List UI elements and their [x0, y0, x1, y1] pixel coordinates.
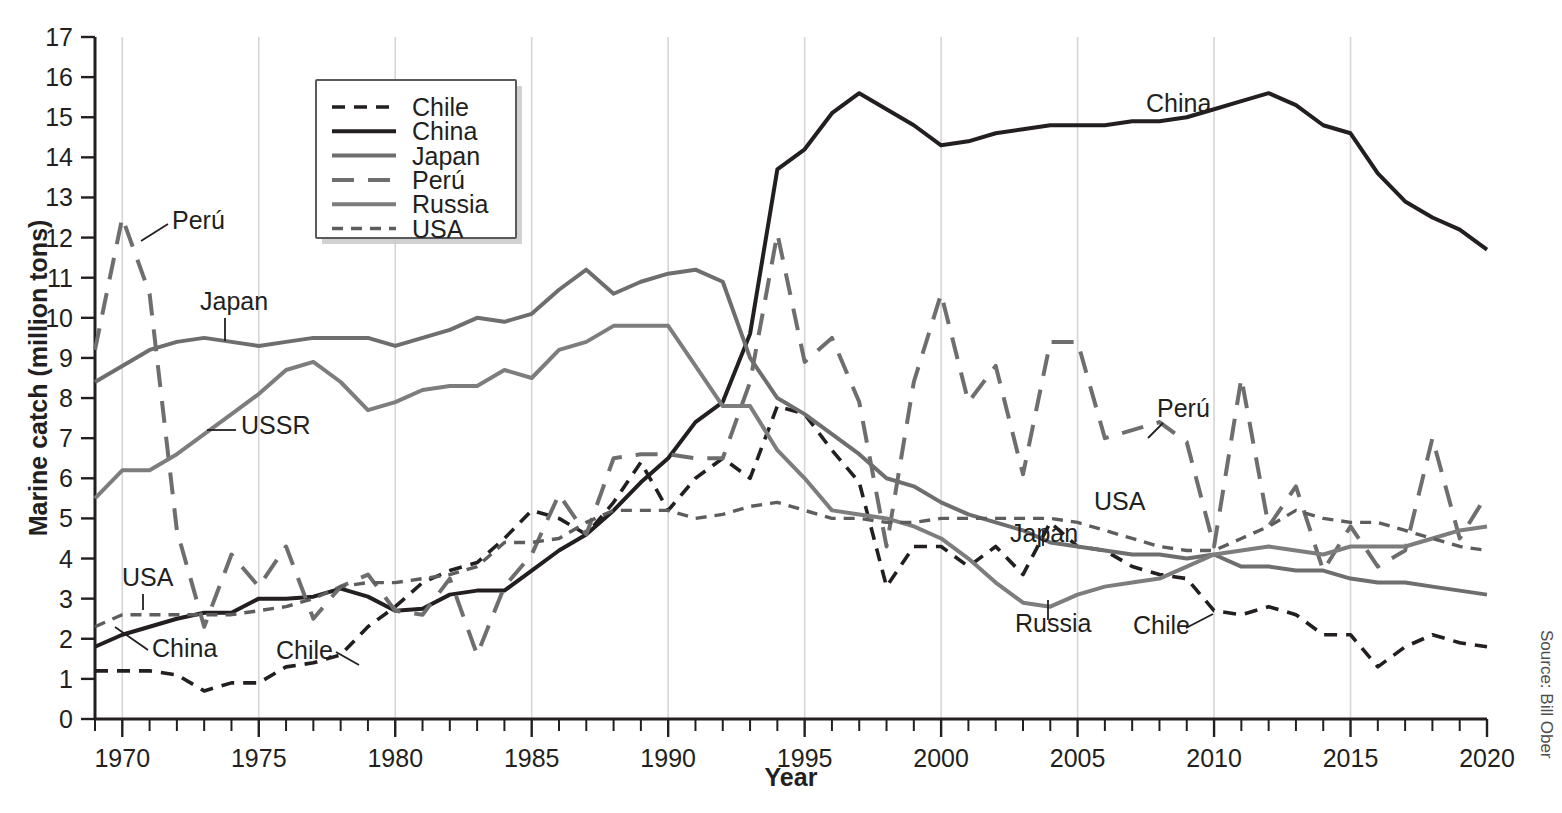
- y-tick-label: 14: [45, 143, 73, 171]
- y-tick-label: 4: [59, 545, 73, 573]
- series-label-ussr-left: USSR: [241, 411, 310, 439]
- y-tick-label: 3: [59, 585, 73, 613]
- series-label-russia-right: Russia: [1015, 609, 1092, 637]
- series-line-china: [95, 93, 1487, 647]
- series-label-usa-right: USA: [1094, 487, 1146, 515]
- series-label-usa-left: USA: [122, 563, 174, 591]
- series-paths: [95, 93, 1487, 691]
- y-tick-label: 9: [59, 344, 73, 372]
- y-axis-ticks: 01234567891011121314151617: [45, 23, 95, 733]
- y-tick-label: 15: [45, 103, 73, 131]
- y-axis-title: Marine catch (million tons): [24, 220, 52, 537]
- y-tick-label: 8: [59, 384, 73, 412]
- legend: ChileChinaJapanPerúRussiaUSA: [316, 80, 522, 244]
- marine-catch-figure: 01234567891011121314151617 1970197519801…: [0, 0, 1562, 813]
- y-tick-label: 16: [45, 63, 73, 91]
- x-tick-label: 1985: [504, 744, 560, 772]
- series-label-chile-right: Chile: [1133, 611, 1190, 639]
- legend-label-usa: USA: [412, 215, 464, 243]
- x-tick-label: 2000: [913, 744, 969, 772]
- x-axis-title: Year: [765, 763, 818, 791]
- y-tick-label: 17: [45, 23, 73, 51]
- series-label-japan-left: Japan: [200, 287, 268, 315]
- y-tick-label: 13: [45, 183, 73, 211]
- marine-catch-line-chart: 01234567891011121314151617 1970197519801…: [0, 0, 1562, 813]
- series-label-china-right: China: [1146, 89, 1211, 117]
- x-tick-label: 2010: [1186, 744, 1242, 772]
- series-label-chile-left: Chile: [276, 636, 333, 664]
- series-label-japan-right: Japan: [1010, 519, 1078, 547]
- x-tick-label: 1990: [640, 744, 696, 772]
- series-annotations: PerúJapanUSSRUSAChinaChileChinaPerúUSAJa…: [122, 89, 1211, 664]
- y-tick-label: 7: [59, 424, 73, 452]
- series-label-peru-left: Perú: [172, 206, 225, 234]
- series-label-peru-right: Perú: [1157, 394, 1210, 422]
- source-credit: Source: Bill Ober: [1537, 630, 1556, 759]
- x-tick-label: 1980: [367, 744, 423, 772]
- x-tick-label: 2015: [1323, 744, 1379, 772]
- y-tick-label: 0: [59, 705, 73, 733]
- y-tick-label: 6: [59, 464, 73, 492]
- x-tick-label: 2005: [1050, 744, 1106, 772]
- y-tick-label: 1: [59, 665, 73, 693]
- series-line-russia: [95, 326, 1487, 607]
- x-tick-label: 1975: [231, 744, 287, 772]
- x-tick-label: 2020: [1459, 744, 1515, 772]
- x-tick-label: 1970: [94, 744, 150, 772]
- series-label-china-left: China: [152, 634, 217, 662]
- y-tick-label: 2: [59, 625, 73, 653]
- y-tick-label: 5: [59, 504, 73, 532]
